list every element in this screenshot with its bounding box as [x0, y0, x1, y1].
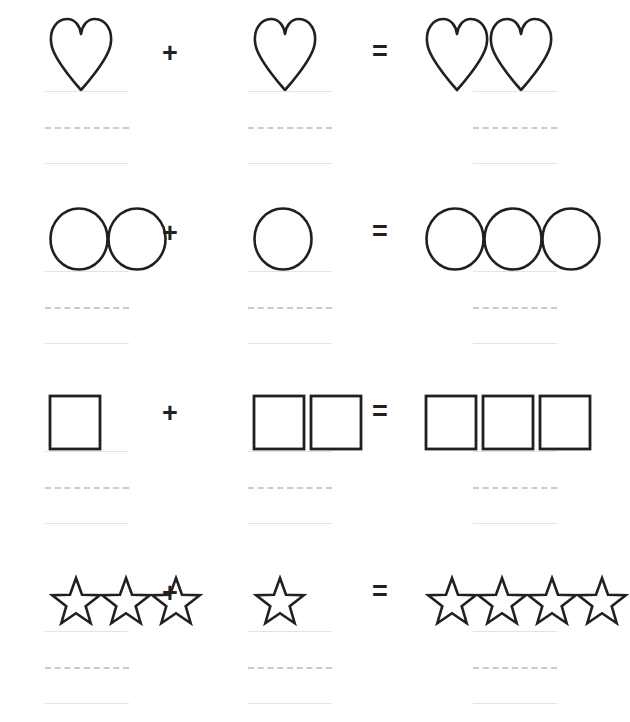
circle-icon — [482, 206, 544, 272]
answer-line-top — [473, 631, 557, 632]
answer-line-bottom — [473, 703, 557, 704]
equation-row: += — [0, 540, 625, 720]
plus-operator: + — [158, 400, 182, 427]
shape-group-circle — [424, 192, 602, 272]
equals-operator: = — [368, 38, 392, 65]
answer-line-dashed-guide — [473, 307, 557, 309]
star-icon — [424, 576, 480, 632]
plus-operator: + — [158, 40, 182, 67]
plus-operator: + — [158, 580, 182, 607]
answer-line-dashed-guide — [473, 667, 557, 669]
circle-icon — [540, 206, 602, 272]
shape-group-square — [424, 372, 594, 452]
equation-row: += — [0, 360, 625, 540]
equation-group-answer_sum — [0, 180, 625, 360]
heart-icon — [488, 16, 554, 92]
star-icon — [574, 576, 630, 632]
equation-group-answer_sum — [0, 360, 625, 540]
heart-icon — [424, 16, 490, 92]
shape-group-heart — [424, 12, 554, 92]
equation-row: += — [0, 180, 625, 360]
star-icon — [474, 576, 530, 632]
equation-group-answer_sum — [0, 540, 625, 720]
square-icon — [538, 394, 594, 452]
equation-row: += — [0, 0, 625, 180]
answer-line-top — [473, 91, 557, 92]
answer-lines-answer_sum[interactable] — [473, 91, 557, 167]
answer-line-dashed-guide — [473, 487, 557, 489]
equals-operator: = — [368, 218, 392, 245]
answer-line-top — [473, 451, 557, 452]
answer-line-bottom — [473, 343, 557, 344]
answer-line-dashed-guide — [473, 127, 557, 129]
answer-line-bottom — [473, 163, 557, 164]
equals-operator: = — [368, 398, 392, 425]
square-icon — [424, 394, 480, 452]
answer-line-bottom — [473, 523, 557, 524]
circle-icon — [424, 206, 486, 272]
answer-lines-answer_sum[interactable] — [473, 631, 557, 707]
square-icon — [481, 394, 537, 452]
plus-operator: + — [158, 220, 182, 247]
star-icon — [524, 576, 580, 632]
answer-lines-answer_sum[interactable] — [473, 451, 557, 527]
answer-lines-answer_sum[interactable] — [473, 271, 557, 347]
equation-group-answer_sum — [0, 0, 625, 180]
equals-operator: = — [368, 578, 392, 605]
answer-line-top — [473, 271, 557, 272]
shape-group-star — [424, 552, 630, 632]
